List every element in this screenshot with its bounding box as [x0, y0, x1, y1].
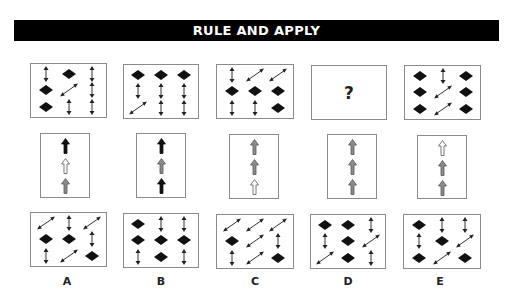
rule-figure-4: [327, 134, 377, 199]
diagonal-double-arrow-icon: [223, 218, 241, 232]
grid-cell: [172, 249, 195, 265]
vertical-double-arrow-icon: [440, 68, 446, 84]
grid-cell: [127, 249, 150, 265]
question-mark: ?: [312, 66, 386, 119]
title-banner: RULE AND APPLY: [14, 20, 499, 41]
title-text: RULE AND APPLY: [193, 23, 321, 38]
diamond-icon: [413, 71, 427, 81]
diagonal-double-arrow-icon: [269, 218, 287, 232]
grid-cell: [431, 68, 454, 84]
option-e-figure[interactable]: [403, 214, 481, 269]
diamond-icon: [177, 235, 191, 245]
grid-cell: [220, 67, 243, 83]
grid-cell: [314, 250, 337, 266]
grid-cell: [57, 215, 80, 231]
diamond-icon: [39, 102, 53, 112]
option-a-figure[interactable]: [30, 212, 107, 267]
diamond-icon: [413, 104, 427, 114]
black-up-arrow-icon: [157, 138, 166, 158]
gray-up-arrow-icon: [250, 139, 259, 159]
grid-cell: [454, 84, 477, 100]
diamond-icon: [154, 252, 168, 262]
grid-cell: [57, 82, 80, 98]
vertical-double-arrow-icon: [43, 66, 49, 82]
vertical-double-arrow-icon: [43, 248, 49, 264]
grid-cell: [220, 233, 243, 249]
gray-up-arrow-icon: [348, 159, 357, 179]
symbol-grid: [311, 215, 385, 268]
grid-cell: [80, 66, 103, 82]
grid-cell: [430, 217, 453, 233]
vertical-double-arrow-icon: [158, 216, 164, 232]
vertical-double-arrow-icon: [66, 99, 72, 115]
option-b-figure[interactable]: [123, 213, 199, 268]
grid-cell: [337, 250, 360, 266]
grid-cell: [243, 83, 266, 99]
grid-cell: [454, 217, 477, 233]
grid-cell: [243, 217, 266, 233]
symbol-grid: [404, 215, 480, 268]
option-e-label[interactable]: E: [425, 275, 455, 288]
vertical-double-arrow-icon: [275, 233, 281, 249]
diagonal-double-arrow-icon: [83, 216, 101, 230]
vertical-double-arrow-icon: [158, 100, 164, 116]
grid-cell: [127, 100, 150, 116]
diamond-icon: [248, 86, 262, 96]
grid-cell: [454, 250, 477, 266]
diamond-icon: [341, 220, 355, 230]
grid-cell: [220, 217, 243, 233]
diagonal-double-arrow-icon: [60, 83, 78, 97]
diamond-icon: [458, 253, 472, 263]
diagonal-double-arrow-icon: [37, 216, 55, 230]
grid-cell: [267, 233, 290, 249]
option-c-label[interactable]: C: [240, 275, 270, 288]
grid-cell: [34, 248, 57, 264]
grid-cell: [407, 250, 430, 266]
question-figure-3: [216, 64, 294, 119]
option-b-label[interactable]: B: [146, 275, 176, 288]
diagonal-double-arrow-icon: [246, 218, 264, 232]
grid-cell: [172, 83, 195, 99]
grid-cell: [431, 84, 454, 100]
gray-up-arrow-icon: [348, 139, 357, 159]
grid-cell: [431, 101, 454, 117]
arrow-stack: [418, 136, 466, 198]
grid-cell: [150, 67, 173, 83]
vertical-double-arrow-icon: [89, 66, 95, 82]
diagonal-double-arrow-icon: [456, 234, 474, 248]
diagonal-double-arrow-icon: [434, 85, 452, 99]
grid-cell: [243, 233, 266, 249]
option-d-figure[interactable]: [310, 214, 386, 269]
grid-cell: [127, 216, 150, 232]
grid-cell: [57, 231, 80, 247]
grid-cell: [267, 250, 290, 266]
grid-cell: [314, 217, 337, 233]
black-up-arrow-icon: [61, 138, 70, 158]
gray-up-arrow-icon: [438, 160, 447, 180]
vertical-double-arrow-icon: [439, 217, 445, 233]
vertical-double-arrow-icon: [135, 83, 141, 99]
diagonal-double-arrow-icon: [269, 68, 287, 82]
vertical-double-arrow-icon: [89, 231, 95, 247]
rule-figure-1: [40, 133, 90, 198]
option-d-label[interactable]: D: [333, 275, 363, 288]
option-a-label[interactable]: A: [52, 275, 82, 288]
diamond-icon: [177, 70, 191, 80]
symbol-grid: [124, 65, 198, 118]
grid-cell: [359, 217, 382, 233]
vertical-double-arrow-icon: [181, 216, 187, 232]
grid-cell: [80, 248, 103, 264]
vertical-double-arrow-icon: [229, 100, 235, 116]
grid-cell: [454, 101, 477, 117]
question-figure-4-unknown: ?: [311, 65, 387, 120]
vertical-double-arrow-icon: [89, 99, 95, 115]
white-up-arrow-icon: [438, 140, 447, 160]
option-c-figure[interactable]: [216, 214, 294, 269]
gray-up-arrow-icon: [348, 179, 357, 199]
diamond-icon: [459, 71, 473, 81]
diamond-icon: [131, 70, 145, 80]
diamond-icon: [271, 103, 285, 113]
grid-cell: [454, 233, 477, 249]
symbol-grid: [217, 65, 293, 118]
diamond-icon: [154, 235, 168, 245]
